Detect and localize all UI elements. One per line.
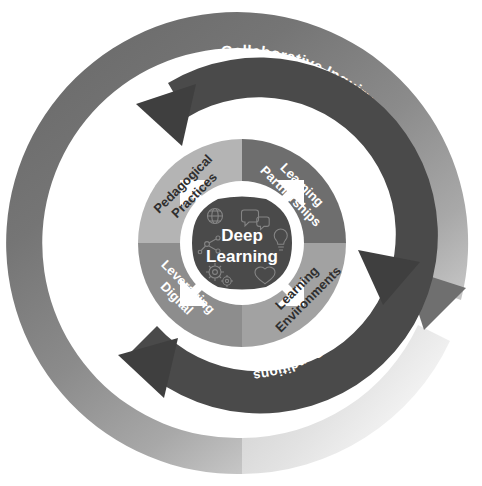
center-title-line2: Learning — [206, 247, 278, 266]
deep-learning-framework-diagram: Collaborative Inquiry School Conditions … — [0, 0, 482, 486]
globe-icon — [208, 209, 223, 224]
inner-ring-arrowhead-topleft — [136, 84, 196, 146]
diagram-canvas: Collaborative Inquiry School Conditions … — [0, 0, 482, 486]
inner-ring-arrowhead-bottomleft — [118, 338, 178, 398]
center-title-line1: Deep — [221, 226, 263, 245]
center-deep-learning[interactable]: Deep Learning — [192, 197, 292, 290]
